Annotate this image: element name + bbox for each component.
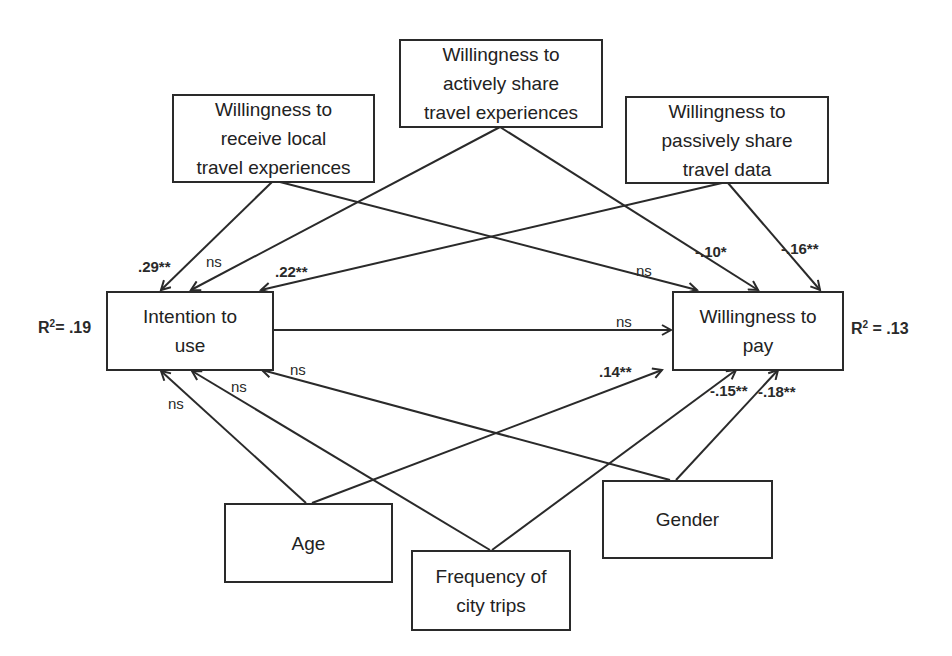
edge-receive-wtp xyxy=(280,182,697,290)
coef-active-intention: ns xyxy=(206,253,222,270)
coef-age-wtp: .14** xyxy=(599,363,632,380)
node-frequency-city-trips: Frequency of city trips xyxy=(411,550,571,631)
coef-gender-wtp: -.18** xyxy=(758,383,796,400)
coef-frequency-wtp: -.15** xyxy=(710,382,748,399)
node-passively-share: Willingness to passively share travel da… xyxy=(625,96,829,184)
node-age: Age xyxy=(224,503,393,583)
coef-active-wtp: -.10* xyxy=(695,243,727,260)
r-squared-intention: R2= .19 xyxy=(38,318,91,337)
node-receive-local-experiences: Willingness to receive local travel expe… xyxy=(172,94,375,183)
node-actively-share: Willingness to actively share travel exp… xyxy=(399,39,603,128)
edge-passive-intention xyxy=(261,183,722,290)
coef-passive-intention: .22** xyxy=(275,263,308,280)
edge-passive-wtp xyxy=(728,183,820,290)
coef-intention-wtp: ns xyxy=(616,313,632,330)
coef-frequency-intention: ns xyxy=(231,378,247,395)
coef-receive-intention: .29** xyxy=(138,258,171,275)
node-willingness-to-pay: Willingness to pay xyxy=(672,291,844,371)
edge-receive-intention xyxy=(161,182,272,290)
node-gender: Gender xyxy=(602,480,773,559)
coef-gender-intention: ns xyxy=(290,361,306,378)
r-squared-wtp: R2 = .13 xyxy=(851,319,909,338)
coef-receive-wtp: ns xyxy=(636,262,652,279)
edge-gender-intention xyxy=(262,370,670,480)
node-intention-to-use: Intention to use xyxy=(106,291,274,371)
coef-passive-wtp: -.16** xyxy=(781,240,819,257)
coef-age-intention: ns xyxy=(168,395,184,412)
